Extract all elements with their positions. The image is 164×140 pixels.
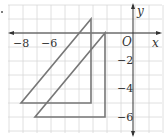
x-tick-label: −8 [13, 37, 29, 50]
origin-label: O [122, 35, 132, 49]
coordinate-figure: y x O −8 −6 −2 −4 −6 [0, 0, 164, 140]
arrow-up-icon [131, 3, 135, 9]
x-axis-label: x [152, 36, 159, 50]
y-tick-label: −4 [117, 82, 133, 95]
y-axis-label: y [136, 4, 144, 18]
x-tick-label: −6 [41, 37, 57, 50]
grid [8, 5, 163, 133]
shapes [21, 19, 105, 117]
arrow-down-icon [131, 131, 135, 137]
arrow-right-icon [156, 31, 162, 35]
bullet-dot [1, 11, 3, 13]
y-tick-label: −6 [117, 111, 133, 124]
y-tick-label: −2 [117, 54, 133, 67]
x-axis [8, 31, 162, 35]
